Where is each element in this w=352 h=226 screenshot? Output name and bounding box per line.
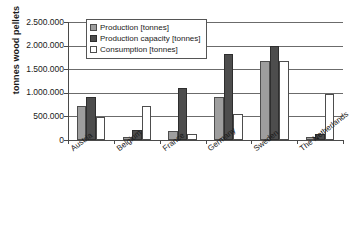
bar (279, 61, 289, 140)
y-axis-tick-label: 1.000.000 (18, 88, 64, 97)
legend-item: Production capacity [tonnes] (90, 33, 201, 44)
bar (270, 46, 280, 140)
legend-label: Production [tonnes] (100, 23, 169, 32)
legend-swatch-icon (90, 24, 97, 31)
y-axis-tick-label: 500.000 (18, 112, 64, 121)
bar (260, 61, 270, 140)
bar (96, 117, 106, 140)
bar-chart: tonnes wood pellets 2.500.0002.000.0001.… (0, 0, 352, 226)
legend-swatch-icon (90, 46, 97, 53)
legend-item: Consumption [tonnes] (90, 44, 201, 55)
y-axis-tick-label: 1.500.000 (18, 65, 64, 74)
legend-label: Production capacity [tonnes] (100, 34, 201, 43)
bar (233, 114, 243, 140)
legend-label: Consumption [tonnes] (100, 45, 178, 54)
y-axis-tick-label: 2.500.000 (18, 18, 64, 27)
x-axis-category-labels: AustriaBelgiumFranceGermanySwedenThe Net… (0, 140, 352, 220)
legend-swatch-icon (90, 35, 97, 42)
legend-item: Production [tonnes] (90, 22, 201, 33)
chart-legend: Production [tonnes]Production capacity [… (86, 19, 207, 59)
y-axis-tick-label: 2.000.000 (18, 41, 64, 50)
